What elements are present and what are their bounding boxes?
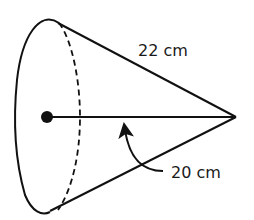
height-label: 20 cm — [171, 165, 221, 181]
slant-top-edge — [58, 23, 236, 117]
cone-diagram: 22 cm 20 cm — [0, 0, 254, 220]
center-dot — [41, 111, 53, 123]
height-pointer-arrow — [125, 130, 163, 171]
cone-figure — [0, 0, 254, 220]
slant-height-label: 22 cm — [138, 43, 188, 59]
